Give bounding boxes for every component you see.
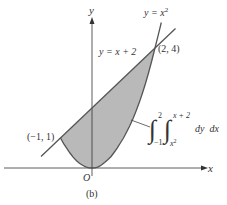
line-label: y = x + 2 — [98, 46, 136, 57]
y-axis-arrow-icon — [90, 17, 95, 24]
point-lower-label: (−1, 1) — [27, 131, 54, 143]
x-axis-label: x — [207, 162, 213, 174]
differentials: dy dx — [195, 123, 219, 134]
inner-lower-limit: x2 — [169, 138, 177, 148]
shaded-region — [61, 48, 156, 168]
leader-line — [131, 120, 150, 127]
integral-expression: ∫ 2 −1 ∫ x + 2 x2 dy dx — [147, 111, 219, 148]
outer-upper-limit: 2 — [158, 111, 162, 120]
inner-upper-limit: x + 2 — [172, 111, 190, 120]
origin-label: O — [83, 172, 90, 183]
region-diagram: y x O y = x2 y = x + 2 (2, 4) (−1, 1) ∫ … — [0, 0, 227, 205]
y-axis-label: y — [88, 4, 94, 16]
point-upper-label: (2, 4) — [158, 43, 180, 55]
x-axis-arrow-icon — [201, 166, 208, 171]
outer-lower-limit: −1 — [154, 138, 163, 147]
parabola-label: y = x2 — [143, 6, 169, 18]
figure-caption: (b) — [86, 188, 98, 200]
